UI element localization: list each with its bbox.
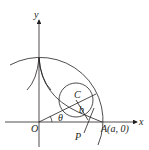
theta-arc — [50, 116, 52, 122]
line-oc — [39, 94, 96, 122]
astroid-curve-lower — [39, 58, 51, 90]
center-label: C — [74, 89, 81, 100]
b-label: b — [79, 104, 84, 115]
large-circle-arc — [10, 57, 103, 145]
x-axis-label: x — [138, 116, 144, 127]
astroid-curve-left — [27, 58, 39, 90]
p-label: P — [74, 131, 81, 142]
astroid-diagram: y x O C θ b P A(a, 0) — [0, 0, 149, 150]
theta-label: θ — [58, 112, 63, 123]
origin-label: O — [31, 123, 38, 134]
y-axis-label: y — [33, 9, 39, 20]
p-trace — [84, 108, 94, 133]
a-label: A(a, 0) — [100, 123, 129, 135]
